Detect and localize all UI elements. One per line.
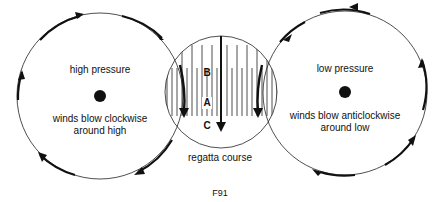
high-center-dot (94, 90, 106, 102)
mark-b: B (202, 67, 212, 79)
high-pressure-title: high pressure (60, 64, 140, 76)
low-center-dot (339, 86, 351, 98)
mark-a: A (202, 97, 212, 109)
regatta-course-circle (165, 36, 277, 148)
high-caption-line1: winds blow clockwise (40, 113, 160, 125)
weather-diagram (0, 0, 435, 202)
figure-label: F91 (200, 187, 240, 199)
high-pressure-circle (17, 12, 183, 179)
high-caption-line2: around high (40, 125, 160, 137)
mark-c: C (202, 120, 212, 132)
low-pressure-title: low pressure (305, 63, 385, 75)
low-pressure-circle (263, 3, 427, 176)
low-caption-line1: winds blow anticlockwise (285, 110, 405, 122)
regatta-course-label: regatta course (180, 152, 260, 164)
low-caption-line2: around low (285, 122, 405, 134)
